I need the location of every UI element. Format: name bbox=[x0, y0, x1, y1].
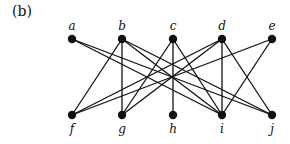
node-label-c: c bbox=[170, 19, 177, 33]
node-label-f: f bbox=[69, 122, 77, 136]
node-label-e: e bbox=[268, 19, 275, 33]
node-label-a: a bbox=[68, 19, 75, 33]
node-i bbox=[218, 111, 226, 119]
node-a bbox=[68, 35, 76, 43]
edge-c-i bbox=[173, 39, 222, 115]
node-g bbox=[118, 111, 126, 119]
bipartite-graph-diagram: (b) abcdefghij bbox=[0, 0, 290, 144]
panel-label: (b) bbox=[12, 3, 32, 19]
node-f bbox=[68, 111, 76, 119]
edges-group bbox=[72, 39, 272, 115]
node-label-g: g bbox=[118, 122, 126, 136]
node-label-i: i bbox=[220, 122, 224, 136]
node-label-d: d bbox=[218, 19, 226, 33]
node-label-j: j bbox=[267, 122, 274, 136]
node-b bbox=[118, 35, 126, 43]
node-d bbox=[218, 35, 226, 43]
node-j bbox=[268, 111, 276, 119]
node-e bbox=[268, 35, 276, 43]
node-h bbox=[169, 111, 177, 119]
node-label-h: h bbox=[169, 122, 177, 136]
node-label-b: b bbox=[118, 19, 126, 33]
node-c bbox=[169, 35, 177, 43]
edge-b-f bbox=[72, 39, 122, 115]
